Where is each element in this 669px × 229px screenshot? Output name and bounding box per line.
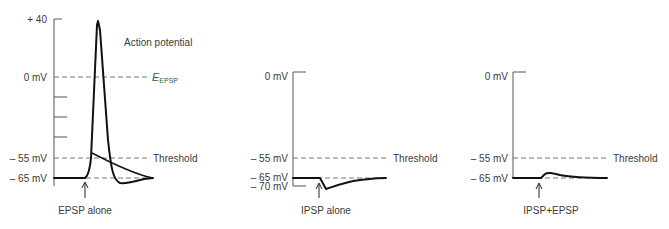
panel-ipsp-epsp: 0 mV – 55 mV – 65 mV Threshold IPSP+EPSP [471, 71, 658, 216]
y-label-minus70: – 70 mV [251, 181, 289, 192]
panel-ipsp: 0 mV – 55 mV – 65 mV – 70 mV Threshold I… [251, 71, 438, 216]
reversal-label: EEPSP [152, 71, 178, 84]
action-potential-label: Action potential [124, 37, 192, 48]
y-label-0mv: 0 mV [265, 71, 289, 82]
threshold-label: Threshold [613, 153, 657, 164]
stimulus-arrow-icon [82, 182, 88, 198]
ipsp-trace [293, 178, 386, 189]
epsp-trace [92, 153, 153, 178]
y-label-0mv: 0 mV [485, 71, 509, 82]
caption-epsp-alone: EPSP alone [58, 205, 112, 216]
panel-epsp: + 40 0 mV – 55 mV – 65 mV EEPSP Action p… [10, 14, 198, 216]
threshold-label: Threshold [393, 153, 437, 164]
caption-ipsp-epsp: IPSP+EPSP [523, 205, 579, 216]
y-axis [54, 19, 62, 186]
ipsp-epsp-trace [513, 173, 607, 178]
y-label-minus55: – 55 mV [251, 153, 289, 164]
psp-diagram: + 40 0 mV – 55 mV – 65 mV EEPSP Action p… [0, 0, 669, 229]
y-axis [513, 72, 526, 178]
caption-ipsp-alone: IPSP alone [301, 205, 351, 216]
stimulus-arrow-icon [316, 183, 322, 198]
y-axis [293, 72, 306, 186]
y-label-minus65: – 65 mV [471, 173, 509, 184]
y-label-plus40: + 40 [27, 14, 47, 25]
y-label-0mv: 0 mV [24, 72, 48, 83]
stimulus-arrow-icon [536, 183, 542, 198]
y-label-minus55: – 55 mV [10, 153, 48, 164]
y-label-minus55: – 55 mV [471, 153, 509, 164]
y-label-minus65: – 65 mV [10, 173, 48, 184]
threshold-label: Threshold [153, 153, 197, 164]
